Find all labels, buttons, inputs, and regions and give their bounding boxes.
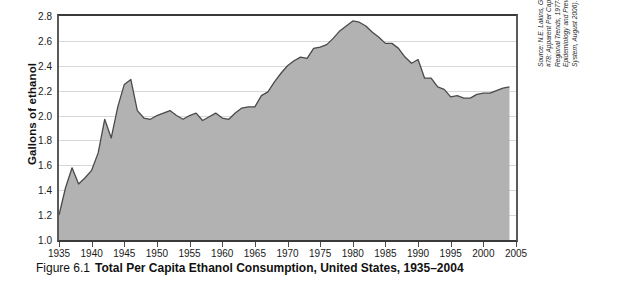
source-note-line: System, August 2006).: [571, 0, 579, 67]
figure-title: Total Per Capita Ethanol Consumption, Un…: [95, 261, 464, 275]
y-axis-tick-label: 1.2: [38, 210, 52, 221]
x-axis-tick-mark: [320, 242, 321, 247]
x-axis-tick-label: 1935: [48, 248, 70, 259]
x-axis-tick-label: 1945: [113, 248, 135, 259]
y-axis-tick-label: 2.2: [38, 85, 52, 96]
y-axis-tick-label: 1.8: [38, 135, 52, 146]
x-axis-tick-mark: [190, 242, 191, 247]
x-axis-tick-mark: [483, 242, 484, 247]
y-axis-tick-label: 1.6: [38, 160, 52, 171]
x-axis-tick-label: 1950: [146, 248, 168, 259]
x-axis-tick-label: 1975: [309, 248, 331, 259]
x-axis-tick-label: 1995: [440, 248, 462, 259]
source-note-line: Source: N.E. Lakins, G.D. Williams, and …: [537, 0, 545, 67]
x-axis-tick-mark: [385, 242, 386, 247]
area-fill: [59, 21, 509, 240]
y-axis-tick-label: 1.0: [38, 235, 52, 246]
y-axis-tick-label: 2.8: [38, 11, 52, 22]
x-axis-tick-label: 1955: [178, 248, 200, 259]
x-axis-tick-mark: [451, 242, 452, 247]
x-axis-tick-mark: [288, 242, 289, 247]
x-axis-tick-label: 1985: [374, 248, 396, 259]
y-axis-tick-label: 1.4: [38, 185, 52, 196]
x-axis-tick-label: 1940: [81, 248, 103, 259]
x-axis-tick-mark: [124, 242, 125, 247]
x-axis-tick-labels: 1935194019451950195519601965197019751980…: [57, 242, 518, 260]
x-axis-tick-mark: [92, 242, 93, 247]
x-axis-tick-label: 1980: [342, 248, 364, 259]
x-axis-tick-mark: [353, 242, 354, 247]
x-axis-tick-mark: [516, 242, 517, 247]
y-axis-tick-label: 2.0: [38, 110, 52, 121]
x-axis-tick-label: 1965: [244, 248, 266, 259]
x-axis-tick-mark: [255, 242, 256, 247]
x-axis-tick-label: 2000: [472, 248, 494, 259]
figure-number: Figure 6.1: [36, 261, 90, 275]
y-axis-tick-label: 2.6: [38, 35, 52, 46]
x-axis-tick-mark: [418, 242, 419, 247]
source-note-line: Regional Trends, 1977–2004 (Bethesda, MD…: [554, 0, 562, 67]
figure-caption: Figure 6.1Total Per Capita Ethanol Consu…: [36, 261, 464, 275]
x-axis-tick-label: 1970: [276, 248, 298, 259]
x-axis-tick-mark: [59, 242, 60, 247]
ethanol-consumption-area-series: [59, 16, 516, 240]
chart-figure: Gallons of ethanol 1.01.21.41.61.82.02.2…: [0, 0, 619, 256]
y-axis-tick-label: 2.4: [38, 60, 52, 71]
plot-area: [57, 14, 518, 242]
source-note-line: #78: Apparent Per Capita Alcohol Consump…: [545, 0, 553, 67]
source-note: Source: N.E. Lakins, G.D. Williams, and …: [537, 0, 599, 67]
x-axis-tick-label: 1960: [211, 248, 233, 259]
x-axis-tick-label: 2005: [505, 248, 527, 259]
x-axis-tick-mark: [157, 242, 158, 247]
y-axis-tick-labels: 1.01.21.41.61.82.02.22.42.62.8: [22, 14, 52, 242]
source-note-line: Epidemiology and Prevention Research, Al…: [562, 0, 570, 67]
figure-container: Gallons of ethanol 1.01.21.41.61.82.02.2…: [0, 0, 619, 283]
x-axis-tick-mark: [222, 242, 223, 247]
x-axis-tick-label: 1990: [407, 248, 429, 259]
